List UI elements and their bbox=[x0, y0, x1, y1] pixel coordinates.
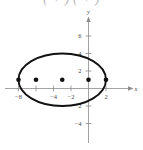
y-tick-label-6: 6 bbox=[78, 32, 82, 39]
y-axis: y bbox=[86, 8, 91, 143]
x-tick-label-2: 2 bbox=[104, 93, 107, 100]
point-vertex-right bbox=[104, 77, 109, 82]
x-tick-label--8: −8 bbox=[15, 93, 22, 100]
y-tick-label--4: −4 bbox=[75, 120, 83, 127]
y-axis-arrow bbox=[86, 17, 90, 23]
x-tick-label--2: −2 bbox=[68, 93, 75, 100]
x-axis-label: x bbox=[134, 85, 138, 92]
point-vertex-left bbox=[16, 77, 21, 82]
x-tick-label--4: −4 bbox=[50, 93, 58, 100]
point-focus-left bbox=[34, 77, 39, 82]
y-tick-label-2: 2 bbox=[78, 67, 81, 74]
x-axis-arrow bbox=[128, 86, 134, 90]
equation-fragment-text: ( + ) ( + ) bbox=[0, 0, 143, 7]
point-focus-right bbox=[86, 77, 91, 82]
plotted-points bbox=[16, 77, 108, 82]
equation-fragment-clipped: ( + ) ( + ) bbox=[0, 0, 143, 11]
graph-figure: ( + ) ( + ) x y −8 −4 −2 2 bbox=[0, 0, 143, 150]
coordinate-plot: x y −8 −4 −2 2 6 4 bbox=[0, 0, 143, 150]
point-center bbox=[60, 77, 65, 82]
